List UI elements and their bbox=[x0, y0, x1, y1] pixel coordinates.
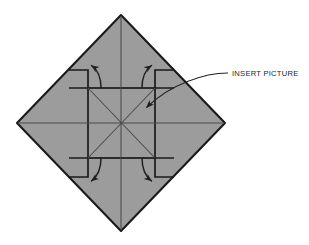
origami-diagram-figure: INSERT PICTURE bbox=[0, 0, 309, 245]
crease-line-group bbox=[18, 16, 224, 230]
diagram-canvas: INSERT PICTURE bbox=[0, 0, 309, 245]
insert-picture-label: INSERT PICTURE bbox=[232, 69, 299, 78]
